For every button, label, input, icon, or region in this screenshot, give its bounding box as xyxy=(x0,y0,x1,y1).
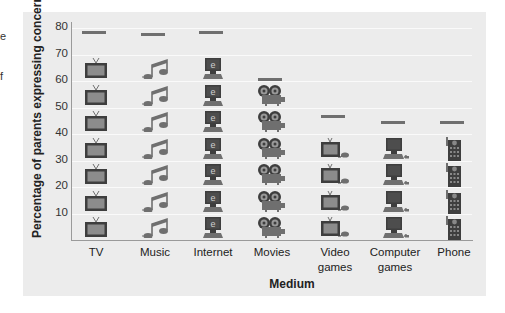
music-note-icon xyxy=(140,137,170,163)
video-game-tv-icon xyxy=(320,190,350,216)
y-tick-label: 50 xyxy=(50,100,68,112)
internet-computer-icon: e xyxy=(200,84,226,110)
phone-icon-partial xyxy=(440,121,464,124)
tv-icon-partial xyxy=(82,31,106,34)
movie-projector-icon xyxy=(257,137,287,163)
internet-computer-icon: e xyxy=(200,110,226,136)
tv-icon xyxy=(83,57,109,83)
cropped-caption-fragment: f xyxy=(0,70,3,82)
computer-game-icon xyxy=(380,163,410,189)
x-axis-title: Medium xyxy=(252,277,332,291)
x-tick-label: Phone xyxy=(419,245,489,260)
computer-game-icon xyxy=(380,190,410,216)
y-tick-label: 10 xyxy=(50,206,68,218)
phone-icon xyxy=(445,137,463,165)
video-game-tv-icon xyxy=(320,216,350,242)
tv-icon xyxy=(83,163,109,189)
phone-icon xyxy=(445,190,463,218)
internet-computer-icon: e xyxy=(200,137,226,163)
video-game-tv-icon xyxy=(320,137,350,163)
music-note-icon xyxy=(140,110,170,136)
svg-text:e: e xyxy=(210,113,215,123)
movie-projector-icon xyxy=(257,84,287,110)
cropped-caption-fragment: e xyxy=(0,30,6,42)
y-tick-label: 20 xyxy=(50,179,68,191)
computer-game-icon xyxy=(380,137,410,163)
music-note-icon xyxy=(140,216,170,242)
y-tick-label: 40 xyxy=(50,126,68,138)
computer-game-icon xyxy=(380,216,410,242)
tv-icon xyxy=(83,190,109,216)
tv-icon xyxy=(83,216,109,242)
tv-icon xyxy=(83,137,109,163)
music-note-icon xyxy=(140,57,170,83)
movie-projector-icon xyxy=(257,216,287,242)
svg-text:e: e xyxy=(210,193,215,203)
movie-projector-icon xyxy=(257,110,287,136)
phone-icon xyxy=(445,163,463,191)
svg-text:e: e xyxy=(210,87,215,97)
internet-computer-icon: e xyxy=(200,57,226,83)
tv-icon xyxy=(83,84,109,110)
x-tick-label: Movies xyxy=(237,245,307,260)
music-note-icon xyxy=(140,84,170,110)
music-note-icon-partial xyxy=(141,33,165,36)
music-note-icon xyxy=(140,163,170,189)
x-tick-label-line: games xyxy=(360,260,430,275)
gridline xyxy=(72,55,472,56)
video-game-tv-icon xyxy=(320,163,350,189)
svg-text:e: e xyxy=(210,219,215,229)
gridline xyxy=(72,28,472,29)
y-axis-line xyxy=(71,22,72,240)
internet-computer-icon: e xyxy=(200,163,226,189)
y-tick-label: 30 xyxy=(50,153,68,165)
y-tick-label: 60 xyxy=(50,73,68,85)
internet-computer-icon: e xyxy=(200,216,226,242)
internet-computer-icon-partial xyxy=(199,31,223,34)
y-tick-label: 70 xyxy=(50,47,68,59)
movie-projector-icon-partial xyxy=(258,78,282,81)
computer-game-icon-partial xyxy=(381,121,405,124)
movie-projector-icon xyxy=(257,163,287,189)
internet-computer-icon: e xyxy=(200,190,226,216)
svg-text:e: e xyxy=(210,60,215,70)
y-axis-label: Percentage of parents expressing concern xyxy=(30,0,44,238)
phone-icon xyxy=(445,216,463,244)
video-game-tv-icon-partial xyxy=(321,115,345,118)
music-note-icon xyxy=(140,190,170,216)
movie-projector-icon xyxy=(257,190,287,216)
y-tick-label: 80 xyxy=(50,20,68,32)
tv-icon xyxy=(83,110,109,136)
svg-text:e: e xyxy=(210,166,215,176)
x-tick-label-line: Phone xyxy=(419,245,489,260)
svg-text:e: e xyxy=(210,140,215,150)
x-tick-label-line: Movies xyxy=(237,245,307,260)
